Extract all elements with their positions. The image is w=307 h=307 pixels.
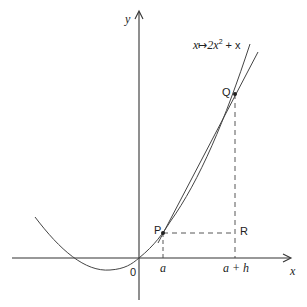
function-rest: + x [223,39,241,51]
maps-to-icon: ↦ [198,39,207,51]
function-label: x↦2x2 + x [193,38,241,51]
point-q-label: Q [222,87,231,98]
secant-line-pq [158,52,258,243]
point-p-label: P [154,225,161,236]
diagram-canvas [0,0,307,307]
secant-tangent-diagram: x↦2x2 + x y x 0 P Q R a a + h [0,0,307,307]
function-term: 2x [207,38,218,52]
origin-label: 0 [130,267,136,278]
y-axis-label: y [125,13,130,25]
point-q-marker [233,92,237,96]
parabola-curve [35,44,250,270]
x-axis-label: x [290,265,295,277]
point-p-marker [161,231,165,235]
point-r-label: R [240,226,248,237]
tick-label-a-plus-h: a + h [223,262,249,274]
tick-label-a: a [160,262,166,274]
